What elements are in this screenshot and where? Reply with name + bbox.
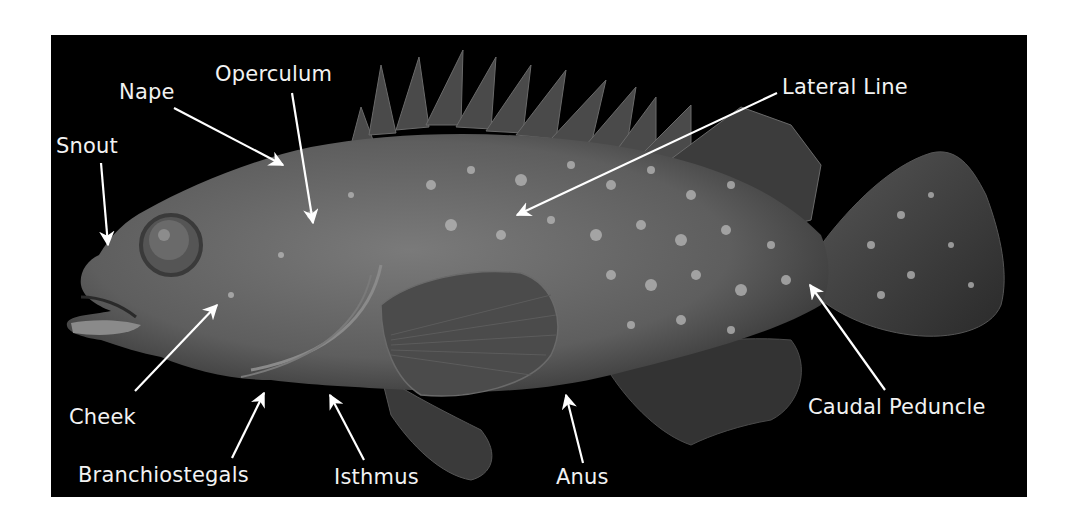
label-lateral-line: Lateral Line xyxy=(782,77,908,98)
label-snout: Snout xyxy=(56,136,118,157)
label-caudal-peduncle: Caudal Peduncle xyxy=(808,397,986,418)
diagram-panel: Snout Nape Operculum Lateral Line Cheek … xyxy=(51,35,1027,497)
label-nape: Nape xyxy=(119,82,175,103)
label-anus: Anus xyxy=(556,467,609,488)
caudal-fin xyxy=(821,152,1004,336)
branchiostegals-arrow xyxy=(232,393,264,458)
label-cheek: Cheek xyxy=(69,407,136,428)
isthmus-arrow xyxy=(330,395,364,460)
fish-illustration xyxy=(51,35,1027,497)
anus-arrow xyxy=(566,395,583,463)
label-branchiostegals: Branchiostegals xyxy=(78,465,249,486)
label-operculum: Operculum xyxy=(215,64,332,85)
eye xyxy=(141,215,201,275)
label-isthmus: Isthmus xyxy=(334,467,419,488)
nape-arrow xyxy=(174,108,283,165)
snout-arrow xyxy=(101,163,108,245)
